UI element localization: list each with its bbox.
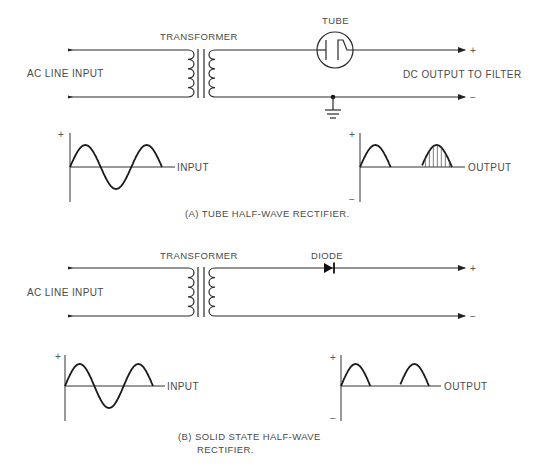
plus-terminal-b: + <box>470 263 476 274</box>
plus-sign: + <box>58 129 64 140</box>
diode-icon <box>324 263 334 274</box>
input-terminal-bottom-a <box>68 96 73 99</box>
transformer-a <box>188 49 215 98</box>
minus-sign: − <box>330 413 336 424</box>
tube-diode-icon <box>317 32 353 68</box>
rectified-wave <box>360 145 452 167</box>
rectified-wave <box>341 364 429 386</box>
transformer-label-a: TRANSFORMER <box>160 31 238 42</box>
transformer-b <box>188 267 215 317</box>
transformer-label-b: TRANSFORMER <box>160 250 238 261</box>
primary-coil-a <box>188 50 194 97</box>
plus-sign: + <box>330 352 336 363</box>
tube-cathode <box>338 40 353 60</box>
minus-terminal-a: − <box>470 92 476 103</box>
ground-icon <box>325 95 341 118</box>
input-label: INPUT <box>167 381 199 392</box>
section-a-tube-rectifier: TRANSFORMER AC LINE INPUT TUBE DC OUTPUT… <box>27 15 522 219</box>
minus-terminal-b: − <box>470 311 476 322</box>
output-label: OUTPUT <box>468 162 512 173</box>
output-waveform-graph-b: + − OUTPUT <box>330 352 488 424</box>
secondary-coil-b <box>209 268 215 316</box>
input-terminal-top-b <box>68 267 73 270</box>
plus-sign: + <box>349 129 355 140</box>
input-terminal-top-a <box>68 49 73 52</box>
input-label: INPUT <box>177 162 209 173</box>
plus-sign: + <box>55 351 61 362</box>
input-waveform-graph-a: + INPUT <box>58 129 209 202</box>
hatched-pulse <box>425 145 449 167</box>
caption-b-line1: (B) SOLID STATE HALF-WAVE <box>178 431 321 442</box>
rectifier-diagram: TRANSFORMER AC LINE INPUT TUBE DC OUTPUT… <box>0 0 549 474</box>
dc-output-label: DC OUTPUT TO FILTER <box>403 69 522 80</box>
tube-label: TUBE <box>322 15 349 26</box>
output-label: OUTPUT <box>444 381 488 392</box>
caption-b-line2: RECTIFIER. <box>197 444 254 455</box>
secondary-coil-a <box>209 50 215 97</box>
diode-label: DIODE <box>311 250 343 261</box>
primary-coil-b <box>188 268 194 316</box>
ac-line-input-label-a: AC LINE INPUT <box>27 68 104 79</box>
ac-line-input-label-b: AC LINE INPUT <box>27 287 104 298</box>
caption-a: (A) TUBE HALF-WAVE RECTIFIER. <box>185 208 350 219</box>
output-waveform-graph-a: + − OUTPUT <box>349 129 512 205</box>
plus-terminal-a: + <box>470 45 476 56</box>
section-b-solid-state-rectifier: TRANSFORMER AC LINE INPUT DIODE + − + IN… <box>27 250 488 455</box>
input-terminal-bottom-b <box>68 315 73 318</box>
minus-sign: − <box>349 194 355 205</box>
input-waveform-graph-b: + INPUT <box>55 351 199 421</box>
